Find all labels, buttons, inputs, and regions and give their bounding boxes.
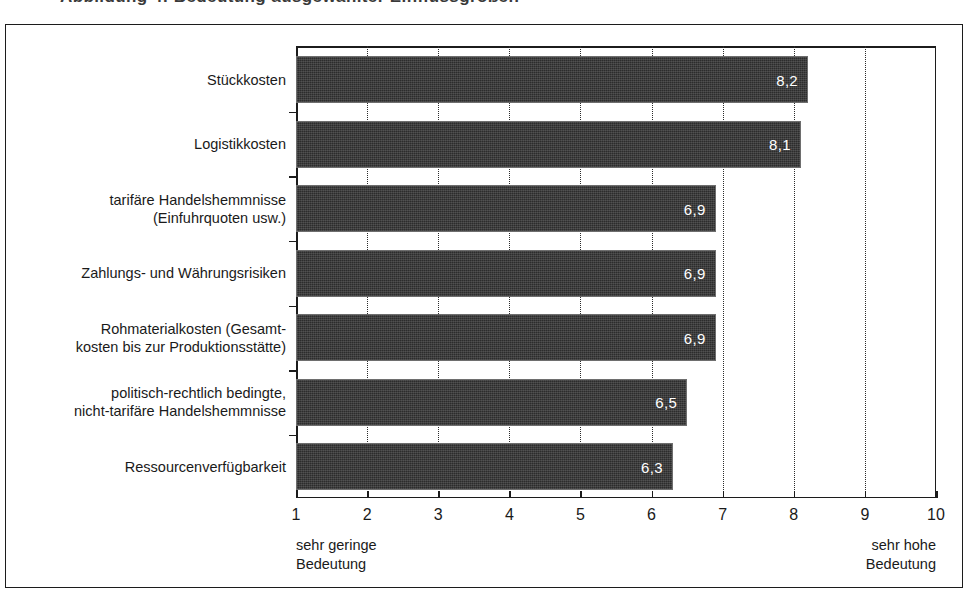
- bar-value-label: 6,3: [641, 459, 663, 474]
- y-tick-4: [289, 306, 296, 308]
- chart-plot-area: 8,28,16,96,96,96,56,3 StückkostenLogisti…: [296, 46, 936, 498]
- x-tick-10: [936, 491, 938, 498]
- x-tick-label-3: 3: [434, 506, 443, 524]
- plot-top-border: [296, 46, 936, 48]
- scale-anchor-high: sehr hohe Bedeutung: [866, 536, 936, 574]
- category-label: politisch-rechtlich bedingte, nicht-tari…: [0, 384, 286, 420]
- x-tick-label-9: 9: [860, 506, 869, 524]
- bar: 6,9: [296, 250, 716, 297]
- bar: 6,9: [296, 185, 716, 232]
- x-tick-1: [296, 491, 298, 498]
- bar-value-label: 6,9: [684, 330, 706, 345]
- x-tick-8: [794, 491, 796, 498]
- category-label: tarifäre Handelshemmnisse (Einfuhrquoten…: [0, 191, 286, 227]
- x-tick-7: [723, 491, 725, 498]
- category-label: Stückkosten: [0, 71, 286, 89]
- bar-value-label: 8,2: [776, 72, 798, 87]
- y-tick-2: [289, 176, 296, 178]
- gridline-7: [723, 46, 724, 498]
- bar-value-label: 6,9: [684, 201, 706, 216]
- scale-anchor-low: sehr geringe Bedeutung: [296, 536, 377, 574]
- figure-frame: 8,28,16,96,96,96,56,3 StückkostenLogisti…: [5, 24, 963, 588]
- bar: 6,5: [296, 379, 687, 426]
- x-tick-2: [367, 491, 369, 498]
- x-tick-6: [652, 491, 654, 498]
- bar: 8,1: [296, 121, 801, 168]
- bar-value-label: 6,9: [684, 266, 706, 281]
- y-tick-5: [289, 370, 296, 372]
- x-tick-label-10: 10: [927, 506, 945, 524]
- x-tick-label-7: 7: [718, 506, 727, 524]
- x-tick-label-8: 8: [789, 506, 798, 524]
- y-tick-6: [289, 435, 296, 437]
- x-tick-9: [865, 491, 867, 498]
- y-tick-3: [289, 241, 296, 243]
- category-label: Zahlungs- und Währungsrisiken: [0, 264, 286, 282]
- x-axis-labels-group: sehr geringe Bedeutung sehr hohe Bedeutu…: [296, 498, 936, 538]
- gridline-8: [794, 46, 795, 498]
- x-tick-label-5: 5: [576, 506, 585, 524]
- bar: 8,2: [296, 56, 808, 103]
- x-tick-4: [509, 491, 511, 498]
- x-tick-label-6: 6: [647, 506, 656, 524]
- x-tick-label-4: 4: [505, 506, 514, 524]
- bar-value-label: 8,1: [769, 137, 791, 152]
- bar: 6,3: [296, 443, 673, 490]
- category-label: Ressourcenverfügbarkeit: [0, 458, 286, 476]
- gridline-9: [865, 46, 866, 498]
- category-labels-group: StückkostenLogistikkostentarifäre Handel…: [0, 46, 286, 498]
- category-label: Rohmaterialkosten (Gesamt- kosten bis zu…: [0, 320, 286, 356]
- cut-off-header-text: Abbildung 4: Bedeutung ausgewählter Einf…: [60, 0, 620, 5]
- plot-right-border: [935, 46, 937, 498]
- x-tick-5: [580, 491, 582, 498]
- x-tick-3: [438, 491, 440, 498]
- bar: 6,9: [296, 314, 716, 361]
- y-tick-1: [289, 112, 296, 114]
- bar-value-label: 6,5: [655, 395, 677, 410]
- x-tick-label-1: 1: [292, 506, 301, 524]
- x-tick-label-2: 2: [363, 506, 372, 524]
- category-label: Logistikkosten: [0, 135, 286, 153]
